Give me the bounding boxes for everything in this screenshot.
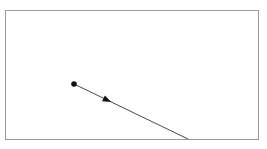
vector-diagram: [0, 0, 267, 149]
diagram-border-rectangle: [6, 11, 259, 140]
origin-dot-icon: [71, 81, 77, 87]
diagram-canvas: [0, 0, 267, 149]
